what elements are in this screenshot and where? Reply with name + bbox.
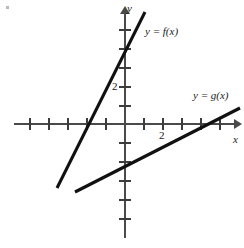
x-axis-arrowhead [234,119,242,129]
coordinate-plane [0,0,244,248]
curve-g-line [75,108,240,192]
x-tick-label-2: 2 [159,130,165,141]
curve-label-f: y = f(x) [145,26,178,37]
curve-label-g: y = g(x) [193,90,229,101]
y-axis-label: y [127,3,132,14]
x-axis-label: x [233,134,238,145]
graph-figure: y x 2 2 y = f(x) y = g(x) [0,0,244,248]
y-tick-label-2: 2 [112,81,118,92]
